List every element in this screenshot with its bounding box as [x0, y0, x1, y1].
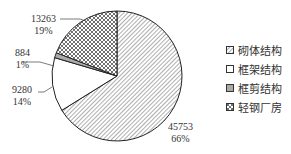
slice-percent: 66% — [168, 133, 193, 145]
crosshatch-swatch-icon — [226, 103, 234, 111]
legend-item-frame: 框架结构 — [226, 59, 282, 78]
slice-value: 45753 — [168, 121, 193, 133]
legend-label: 轻钢厂房 — [238, 99, 282, 115]
slice-percent: 19% — [31, 25, 56, 37]
slice-percent: 14% — [12, 96, 32, 108]
slice-value: 13263 — [31, 13, 56, 25]
legend: 砌体结构 框架结构 框剪结构 轻钢厂房 — [226, 40, 282, 116]
slice-label-masonry: 45753 66% — [168, 121, 193, 145]
legend-label: 框剪结构 — [238, 80, 282, 96]
legend-label: 砌体结构 — [238, 42, 282, 58]
legend-label: 框架结构 — [238, 61, 282, 77]
hatch-swatch-icon — [226, 46, 234, 54]
slice-label-frame: 9280 14% — [12, 84, 32, 108]
slice-value: 884 — [15, 47, 30, 59]
slice-label-frame-shear: 884 1% — [15, 47, 30, 71]
white-swatch-icon — [226, 65, 234, 73]
slice-value: 9280 — [12, 84, 32, 96]
legend-item-light-steel: 轻钢厂房 — [226, 97, 282, 116]
slice-percent: 1% — [15, 59, 30, 71]
slice-label-light-steel: 13263 19% — [31, 13, 56, 37]
legend-item-masonry: 砌体结构 — [226, 40, 282, 59]
leader-line-9280 — [38, 87, 52, 92]
legend-item-frame-shear: 框剪结构 — [226, 78, 282, 97]
gray-swatch-icon — [226, 84, 234, 92]
